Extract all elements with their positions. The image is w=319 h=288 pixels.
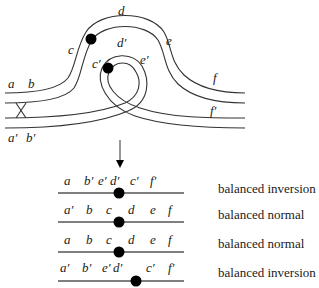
inversion-loop-diagram: a b c d e f d′ c′ e′ f′ a′ b′ a b′ e′ d′… xyxy=(0,0,319,288)
svg-text:c′: c′ xyxy=(130,173,139,188)
svg-text:b: b xyxy=(86,202,93,217)
svg-text:a′: a′ xyxy=(64,202,74,217)
row-1-description: balanced inversion xyxy=(218,181,316,196)
svg-text:e′: e′ xyxy=(98,173,107,188)
label-b: b xyxy=(28,76,35,91)
label-d: d xyxy=(118,3,125,18)
svg-text:f: f xyxy=(168,232,174,247)
svg-text:c: c xyxy=(106,202,112,217)
inner-chromosome xyxy=(5,56,245,128)
svg-text:e: e xyxy=(150,232,156,247)
label-c-prime: c′ xyxy=(92,56,101,71)
row-4-description: balanced inversion xyxy=(218,265,316,280)
svg-text:a: a xyxy=(64,173,71,188)
svg-text:c: c xyxy=(106,232,112,247)
svg-text:f: f xyxy=(168,202,174,217)
svg-text:e′: e′ xyxy=(102,260,111,275)
label-e-prime: e′ xyxy=(140,52,149,67)
svg-text:b′: b′ xyxy=(82,260,92,275)
label-e: e xyxy=(166,33,172,48)
gamete-row-2: a′ b c d e f balanced normal xyxy=(58,202,305,228)
outer-chromosome xyxy=(5,16,245,104)
svg-text:f′: f′ xyxy=(150,173,157,188)
svg-text:b′: b′ xyxy=(84,173,94,188)
label-c: c xyxy=(68,42,74,57)
svg-text:d: d xyxy=(128,232,135,247)
label-b-prime: b′ xyxy=(26,130,36,145)
row-2-description: balanced normal xyxy=(218,207,305,222)
down-arrow xyxy=(116,140,124,168)
label-a: a xyxy=(8,76,15,91)
svg-text:e: e xyxy=(150,202,156,217)
row-3-description: balanced normal xyxy=(218,236,305,251)
label-f-prime: f′ xyxy=(210,103,217,118)
svg-text:b: b xyxy=(86,232,93,247)
gamete-row-4: a′ b′ e′ d′ c′ f′ balanced inversion xyxy=(58,260,316,287)
svg-text:d′: d′ xyxy=(113,260,123,275)
svg-text:f′: f′ xyxy=(168,260,175,275)
svg-text:d′: d′ xyxy=(110,173,120,188)
centromere-dot xyxy=(86,34,97,45)
gamete-row-1: a b′ e′ d′ c′ f′ balanced inversion xyxy=(58,173,316,199)
svg-text:a′: a′ xyxy=(60,260,70,275)
svg-text:a: a xyxy=(64,232,71,247)
gamete-row-3: a b c d e f balanced normal xyxy=(58,232,305,258)
svg-text:d: d xyxy=(128,202,135,217)
label-f: f xyxy=(213,70,219,85)
centromere-dot xyxy=(103,63,114,74)
label-d-prime: d′ xyxy=(117,35,127,50)
crossover-mark xyxy=(16,103,26,118)
label-a-prime: a′ xyxy=(8,130,18,145)
svg-text:c′: c′ xyxy=(146,260,155,275)
